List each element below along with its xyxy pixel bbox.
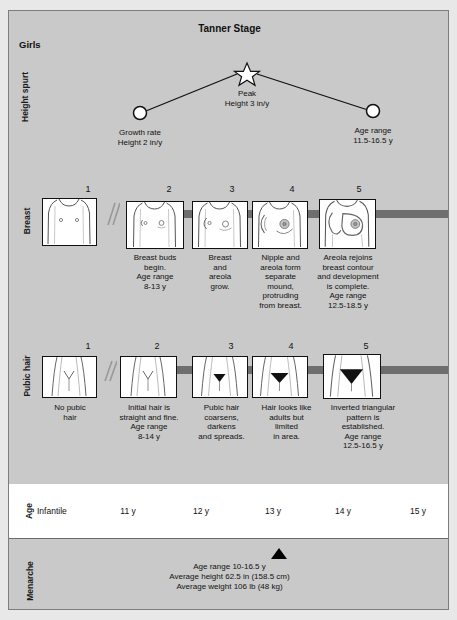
page-title: Tanner Stage	[9, 23, 449, 34]
pubic-hair-stage-5-figure	[323, 354, 381, 399]
age-cell: 11 y	[108, 506, 148, 516]
pubic-hair-stage-3-figure	[192, 356, 248, 398]
breast-stage-2-caption: Breast buds begin. Age range 8-13 y	[117, 253, 193, 291]
pubic-hair-stage-number: 3	[216, 341, 246, 351]
pubic-hair-stage-number: 4	[276, 341, 306, 351]
timeline-break-mark	[104, 201, 120, 227]
height-spurt-start-label: Growth rate Height 2 in/y	[90, 128, 190, 147]
age-cell: Infantile	[37, 506, 103, 516]
age-cell: 13 y	[253, 506, 293, 516]
subject-label: Girls	[19, 39, 41, 50]
breast-stage-2-figure	[126, 201, 184, 249]
breast-stage-5-figure	[319, 199, 376, 249]
age-cell: 12 y	[181, 506, 221, 516]
circle-marker-start	[134, 107, 147, 120]
breast-stage-number: 2	[154, 184, 184, 194]
menarche-divider	[9, 538, 449, 539]
breast-stage-4-caption: Nipple and areola form separate mound, p…	[248, 253, 313, 311]
pubic-hair-stage-number: 2	[142, 341, 172, 351]
pubic-hair-stage-3-caption: Pubic hair coarsens, darkens and spreads…	[189, 403, 254, 441]
breast-stage-number: 5	[344, 184, 374, 194]
breast-stage-5-caption: Areola rejoins breast contour and develo…	[307, 253, 389, 311]
pubic-hair-stage-number: 5	[351, 341, 381, 351]
menarche-text: Age range 10-16.5 y Average height 62.5 …	[9, 562, 449, 592]
breast-stage-number: 1	[73, 184, 103, 194]
breast-stage-1-figure	[42, 198, 97, 246]
pubic-hair-stage-1-figure	[42, 356, 97, 398]
height-spurt-peak-label: Peak Height 3 in/y	[197, 89, 297, 108]
row-label-pubic-hair: Pubic hair	[22, 346, 32, 406]
pubic-hair-stage-1-caption: No pubic hair	[41, 403, 99, 422]
height-spurt-end-label: Age range 11.5-16.5 y	[323, 126, 423, 145]
pubic-hair-stage-2-caption: Initial hair is straight and fine. Age r…	[107, 403, 191, 441]
height-spurt-chart	[9, 51, 449, 171]
age-cell: 14 y	[323, 506, 363, 516]
row-label-breast: Breast	[22, 196, 32, 246]
age-cell: 15 y	[398, 506, 438, 516]
breast-stage-number: 4	[277, 184, 307, 194]
breast-stage-number: 3	[217, 184, 247, 194]
pubic-hair-stage-5-caption: Inverted triangular pattern is establish…	[314, 403, 412, 451]
star-marker	[235, 63, 260, 85]
breast-stage-4-figure	[252, 201, 308, 249]
circle-marker-end	[367, 105, 380, 118]
triangle-marker	[271, 548, 287, 559]
pubic-hair-stage-4-caption: Hair looks like adults but limited in ar…	[254, 403, 319, 441]
breast-stage-3-figure	[192, 201, 248, 249]
pubic-hair-stage-2-figure	[120, 356, 177, 398]
pubic-hair-stage-4-figure	[252, 356, 308, 398]
row-label-age: Age	[24, 493, 34, 529]
breast-stage-3-caption: Breast and areola grow.	[191, 253, 249, 291]
diagram-frame: Tanner Stage Girls Height spurt Peak Hei…	[8, 10, 449, 610]
timeline-break-mark	[101, 359, 117, 385]
pubic-hair-stage-number: 1	[73, 341, 103, 351]
